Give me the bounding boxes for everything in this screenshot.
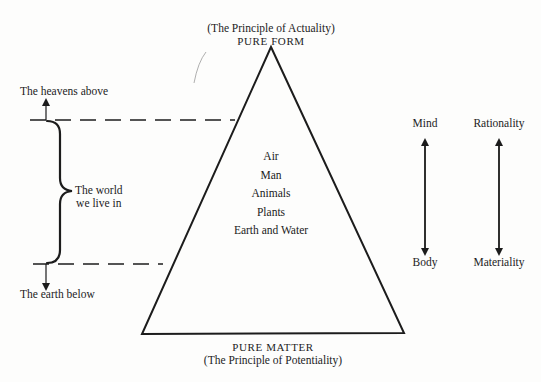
hierarchy-list: Air Man Animals Plants Earth and Water xyxy=(234,147,308,240)
potentiality-label: (The Principle of Potentiality) xyxy=(204,354,342,367)
hierarchy-item-plants: Plants xyxy=(234,203,308,222)
world-label-line1: The world xyxy=(75,184,123,197)
hierarchy-item-air: Air xyxy=(234,147,308,166)
heavens-above-label: The heavens above xyxy=(20,85,108,98)
earth-below-label: The earth below xyxy=(20,288,95,301)
hierarchy-item-man: Man xyxy=(234,166,308,185)
materiality-label: Materiality xyxy=(473,256,524,269)
hierarchy-item-earth-water: Earth and Water xyxy=(234,221,308,240)
actuality-label: (The Principle of Actuality) xyxy=(207,22,334,35)
pure-matter-label: PURE MATTER xyxy=(232,341,313,354)
body-label: Body xyxy=(413,256,438,269)
world-label-line2: we live in xyxy=(75,197,123,210)
curly-brace-icon xyxy=(47,121,72,263)
rationality-label: Rationality xyxy=(473,117,524,130)
mind-label: Mind xyxy=(413,117,438,130)
diagram-page: (The Principle of Actuality) PURE FORM A… xyxy=(0,0,541,382)
pencil-mark xyxy=(194,52,206,83)
hierarchy-item-animals: Animals xyxy=(234,184,308,203)
pure-form-label: PURE FORM xyxy=(237,35,304,48)
world-label: The world we live in xyxy=(75,184,123,210)
